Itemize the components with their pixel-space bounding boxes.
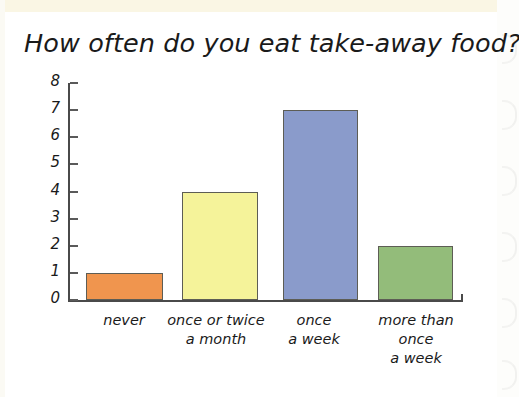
x-axis-line <box>68 300 463 302</box>
y-axis-tick-label: 3 <box>32 210 60 225</box>
chart-page: How often do you eat take-away food? 876… <box>0 0 519 397</box>
bar-chart: 876543210 neveronce or twice a monthonce… <box>0 0 519 397</box>
y-axis-tick <box>70 245 78 247</box>
y-axis-tick <box>70 299 78 301</box>
bar <box>86 273 163 300</box>
y-axis-tick <box>70 272 78 274</box>
y-axis-tick-label: 6 <box>32 128 60 143</box>
y-axis-tick <box>70 163 78 165</box>
y-axis-tick <box>70 191 78 193</box>
bar <box>182 192 258 301</box>
y-axis-tick-label: 2 <box>32 237 60 252</box>
x-axis-label: once or twice a month <box>158 311 274 349</box>
x-axis-label: once a week <box>264 311 364 349</box>
y-axis-tick-label: 5 <box>32 155 60 170</box>
y-axis-tick-label: 4 <box>32 183 60 198</box>
y-axis-tick <box>70 136 78 138</box>
bar <box>378 246 453 300</box>
y-axis-tick-label: 8 <box>32 74 60 89</box>
x-axis-endcap <box>461 294 463 302</box>
y-axis-line <box>68 83 70 302</box>
y-axis-tick-label: 1 <box>32 264 60 279</box>
x-axis-label: more than once a week <box>360 311 472 368</box>
y-axis-tick <box>70 109 78 111</box>
y-axis-tick-label: 0 <box>32 291 60 306</box>
y-axis-tick <box>70 218 78 220</box>
y-axis-tick <box>70 82 78 84</box>
bar <box>283 110 358 300</box>
y-axis-tick-label: 7 <box>32 101 60 116</box>
